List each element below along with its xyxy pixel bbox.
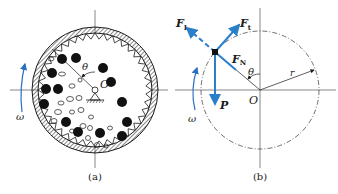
pivot-o	[92, 87, 98, 93]
label-force-normal: FN	[231, 53, 247, 67]
rotation-arrow-a	[21, 64, 25, 112]
force-tangential	[215, 25, 239, 52]
caption-a: (a)	[88, 171, 102, 182]
radius-label: r	[290, 68, 295, 78]
omega-label-a: ω	[16, 111, 24, 122]
figure-b: r θ O FI Ft FN P ω (b)	[175, 8, 336, 182]
figure-a: θ O	[10, 10, 168, 182]
force-inertia-dashed	[187, 28, 215, 52]
label-force-inertia: FI	[175, 17, 187, 32]
caption-b: (b)	[253, 171, 267, 182]
theta-label-b: θ	[248, 66, 254, 77]
rotation-arrow-b	[193, 68, 197, 110]
particle	[212, 49, 218, 55]
theta-label-a: θ	[82, 61, 88, 72]
omega-label-b: ω	[188, 113, 196, 124]
radius-r	[260, 70, 314, 90]
label-force-tangential: Ft	[239, 17, 252, 32]
mill-diagram: θ O	[0, 0, 338, 194]
center-label-b: O	[249, 94, 258, 107]
label-force-weight: P	[219, 99, 229, 112]
